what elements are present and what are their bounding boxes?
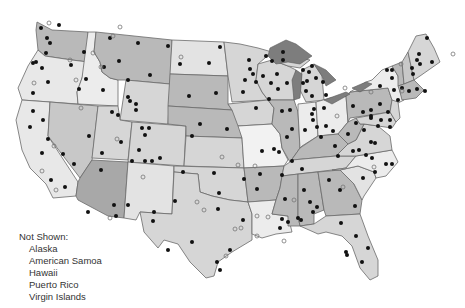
lake-superior (268, 40, 312, 64)
legend-item-hawaii: Hawaii (19, 267, 102, 279)
state-new-mexico[interactable] (124, 162, 174, 220)
state-wyoming[interactable] (120, 80, 170, 124)
state-kansas[interactable] (184, 136, 244, 168)
legend-item-alaska: Alaska (19, 243, 102, 255)
legend-heading: Not Shown: (19, 231, 102, 243)
state-colorado[interactable] (128, 122, 186, 166)
legend-item-puerto-rico: Puerto Rico (19, 279, 102, 291)
legend-item-american-samoa: American Samoa (19, 255, 102, 267)
legend-item-virgin-islands: Virgin Islands (19, 291, 102, 303)
state-south-dakota[interactable] (168, 74, 232, 110)
not-shown-legend: Not Shown: Alaska American Samoa Hawaii … (19, 231, 102, 303)
